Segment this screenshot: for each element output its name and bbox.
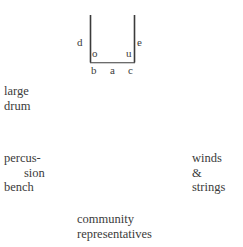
stage-label-b: b (91, 65, 97, 76)
annotation-percussion-bench: percus- sion bench (4, 151, 45, 195)
annotation-large-drum: large drum (4, 84, 30, 113)
stage-label-c: c (128, 65, 133, 76)
annotation-line: bench (4, 180, 45, 195)
stage-label-o: o (92, 48, 98, 59)
annotation-community-representatives: community representatives (77, 212, 152, 241)
annotation-line: strings (192, 180, 225, 195)
annotation-line: & (192, 166, 225, 181)
annotation-line: representatives (77, 227, 152, 242)
diagram-canvas: d e o u b a c large drum percus- sion be… (0, 0, 243, 247)
stage-label-a: a (110, 65, 115, 76)
stage-label-d: d (77, 37, 83, 48)
annotation-line: drum (4, 99, 30, 114)
annotation-line: sion (4, 166, 45, 181)
annotation-line: large (4, 84, 30, 99)
annotation-winds-strings: winds & strings (192, 151, 225, 195)
stage-label-u: u (126, 48, 132, 59)
stage-label-e: e (137, 37, 142, 48)
stage-outline-shape (0, 0, 243, 247)
annotation-line: community (77, 212, 152, 227)
annotation-line: percus- (4, 151, 45, 166)
annotation-line: winds (192, 151, 225, 166)
